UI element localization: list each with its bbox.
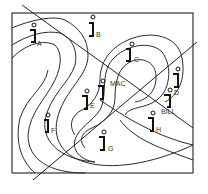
figure-D: D xyxy=(173,67,180,96)
svg-text:C: C xyxy=(134,56,139,63)
figure-B: B xyxy=(89,15,101,38)
contour-map-diagram: A B C D E MAC F BILL G xyxy=(0,0,208,194)
figure-E: E xyxy=(82,89,95,109)
svg-text:F: F xyxy=(51,127,55,134)
svg-text:H: H xyxy=(156,126,161,133)
svg-text:BILL: BILL xyxy=(161,108,176,115)
figure-G: G xyxy=(99,130,113,152)
svg-text:MAC: MAC xyxy=(110,80,126,87)
svg-text:E: E xyxy=(90,102,95,109)
svg-text:G: G xyxy=(108,145,113,152)
figure-C: C xyxy=(126,42,139,63)
svg-text:D: D xyxy=(174,89,179,96)
figure-MAC: MAC xyxy=(98,79,126,99)
svg-text:A: A xyxy=(37,40,42,47)
svg-text:B: B xyxy=(96,31,101,38)
